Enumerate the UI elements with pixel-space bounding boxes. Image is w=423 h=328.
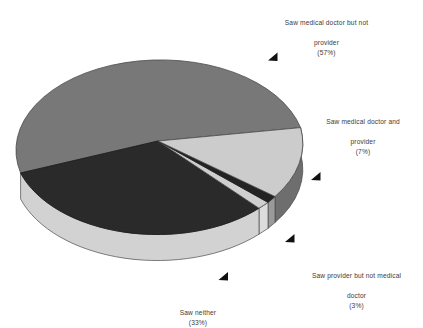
callout-line1: Saw medical doctor but not: [285, 19, 368, 26]
callout-line2: provider: [350, 138, 375, 145]
callout-percent: (3%): [292, 301, 421, 311]
callout-percent: (7%): [306, 147, 420, 157]
arrow-marker-icon-3: [285, 234, 295, 243]
arrow-marker-icon-7: [311, 172, 321, 181]
callout-saw-provider-but-not-medical-doctor: Saw provider but not medical doctor (3%): [292, 261, 421, 321]
callout-percent: (33%): [128, 318, 268, 328]
callout-line2: provider: [314, 39, 339, 46]
callout-line1: Saw provider but not medical: [312, 272, 401, 279]
callout-saw-medical-doctor-and-provider: Saw medical doctor and provider (7%): [306, 107, 420, 167]
callout-line1: Saw neither: [180, 309, 216, 316]
callout-percent: (57%): [243, 48, 410, 58]
callout-saw-neither: Saw neither (33%): [128, 298, 268, 328]
pie-chart-figure: Saw medical doctor but not provider (57%…: [0, 0, 423, 328]
callout-line2: doctor: [347, 292, 366, 299]
callout-line1: Saw medical doctor and: [326, 118, 400, 125]
callout-saw-medical-doctor-but-not-provider: Saw medical doctor but not provider (57%…: [243, 8, 410, 68]
arrow-marker-icon-33: [219, 272, 229, 281]
